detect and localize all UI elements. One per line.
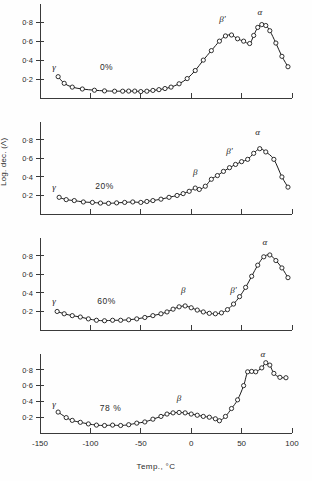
peak-annotation-α: α <box>255 127 260 137</box>
data-point <box>86 422 90 426</box>
y-tick-label: 0·6 <box>22 37 33 46</box>
data-point <box>119 423 123 427</box>
data-point <box>256 25 260 29</box>
data-point <box>268 253 272 257</box>
data-point <box>127 318 131 322</box>
x-tick-label: 0 <box>189 439 194 448</box>
data-point <box>98 201 102 205</box>
plot-area-2: 0·20·40·60·8γββ'α60% <box>0 234 312 350</box>
data-point <box>185 76 189 80</box>
plot-area-0: 0·20·40·60·8γβ'α0% <box>0 0 312 118</box>
data-point <box>193 186 197 190</box>
data-point <box>57 195 61 199</box>
data-point <box>151 417 155 421</box>
data-point <box>264 23 268 27</box>
data-point <box>151 198 155 202</box>
data-point <box>70 314 74 318</box>
data-point <box>106 201 110 205</box>
data-point <box>235 37 239 41</box>
data-point <box>72 198 76 202</box>
data-point <box>102 423 106 427</box>
data-point <box>278 375 282 379</box>
data-point <box>246 370 250 374</box>
data-point <box>127 423 131 427</box>
data-point <box>240 160 244 164</box>
data-point <box>219 311 223 315</box>
data-point <box>131 200 135 204</box>
data-point <box>163 86 167 90</box>
y-tick-label: 0·2 <box>22 75 33 84</box>
data-point <box>213 312 217 316</box>
data-point <box>189 412 193 416</box>
data-point <box>70 85 74 89</box>
data-point <box>217 419 221 423</box>
data-point <box>229 406 233 410</box>
data-point <box>92 88 96 92</box>
peak-annotation-β-prime: β' <box>225 146 233 156</box>
data-point <box>115 201 119 205</box>
data-point <box>242 39 246 43</box>
peak-annotation-β: β <box>192 167 198 177</box>
data-point <box>123 200 127 204</box>
data-point <box>280 175 284 179</box>
data-point <box>274 258 278 262</box>
peak-annotation-β-prime: β' <box>229 285 237 295</box>
data-point <box>215 173 219 177</box>
data-point <box>286 185 290 189</box>
data-point <box>209 49 213 53</box>
data-point <box>225 308 229 312</box>
panel-percent-label: 0% <box>100 62 113 72</box>
y-tick-label: 0·6 <box>22 154 33 163</box>
data-point <box>264 150 268 154</box>
data-point <box>227 166 231 170</box>
data-point <box>213 417 217 421</box>
data-point <box>94 423 98 427</box>
data-point <box>165 310 169 314</box>
plot-area-3: 0·20·40·60·8-150-100-50050100γβα78 % <box>0 350 312 481</box>
data-point <box>151 314 155 318</box>
data-point <box>86 317 90 321</box>
data-point <box>55 309 59 313</box>
data-point <box>64 416 68 420</box>
data-point <box>167 195 171 199</box>
data-point <box>244 285 248 289</box>
y-tick-label: 0·8 <box>22 252 33 261</box>
data-point <box>80 87 84 91</box>
y-tick-label: 0·4 <box>22 397 33 406</box>
data-point <box>201 414 205 418</box>
y-tick-label: 0·8 <box>22 18 33 27</box>
data-point <box>268 29 272 33</box>
data-point <box>110 318 114 322</box>
data-point <box>56 75 60 79</box>
panel-percent-label: 20% <box>95 181 114 191</box>
data-point <box>272 157 276 161</box>
data-point <box>223 34 227 38</box>
data-point <box>110 423 114 427</box>
data-point <box>280 266 284 270</box>
data-point <box>159 312 163 316</box>
y-tick-label: 0·4 <box>22 56 33 65</box>
data-point <box>78 420 82 424</box>
data-point <box>274 41 278 45</box>
data-point <box>56 410 60 414</box>
data-point <box>262 255 266 259</box>
data-point <box>268 363 272 367</box>
x-tick-label: 100 <box>285 439 299 448</box>
data-point <box>209 177 213 181</box>
data-point <box>207 311 211 315</box>
data-point <box>157 88 161 92</box>
data-point <box>62 81 66 85</box>
data-point <box>139 89 143 93</box>
peak-annotation-α: α <box>262 237 267 247</box>
x-tick-label: 50 <box>237 439 246 448</box>
data-point <box>133 89 137 93</box>
data-point <box>286 65 290 69</box>
data-point <box>102 319 106 323</box>
data-point <box>78 315 82 319</box>
data-point <box>181 192 185 196</box>
data-point <box>252 151 256 155</box>
data-point <box>203 184 207 188</box>
panel-20-percent: 0·20·40·60·8γββ'α20% <box>0 118 312 234</box>
data-point <box>112 89 116 93</box>
peak-annotation-γ: γ <box>52 62 56 72</box>
